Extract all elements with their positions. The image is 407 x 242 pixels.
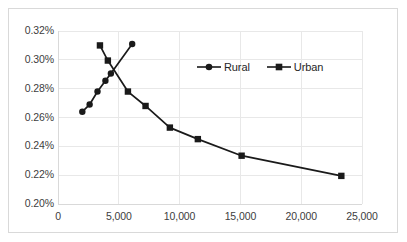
gridlines (58, 31, 362, 204)
data-point-marker (338, 173, 344, 179)
data-point-marker (125, 88, 131, 94)
x-tick-label: 20,000 (285, 210, 317, 222)
data-point-marker (86, 101, 92, 107)
x-tick-label: 10,000 (164, 210, 196, 222)
data-point-marker (167, 124, 173, 130)
y-tick-label: 0.30% (12, 53, 54, 65)
y-tick-label: 0.20% (12, 197, 54, 209)
data-point-marker (108, 70, 114, 76)
legend-label-rural: Rural (224, 61, 250, 73)
data-point-marker (79, 109, 85, 115)
legend-item-urban: Urban (266, 61, 323, 73)
y-tick-label: 0.28% (12, 82, 54, 94)
data-point-marker (142, 103, 148, 109)
data-point-marker (105, 57, 111, 63)
data-point-marker (102, 78, 108, 84)
chart-container: 0.20%0.22%0.24%0.26%0.28%0.30%0.32% 05,0… (0, 0, 407, 242)
legend-item-rural: Rural (196, 61, 250, 73)
y-tick-label: 0.24% (12, 139, 54, 151)
data-point-marker (94, 88, 100, 94)
legend-marker-square-icon (266, 61, 292, 73)
x-tick-label: 0 (55, 210, 61, 222)
y-tick-label: 0.22% (12, 168, 54, 180)
data-point-marker (97, 42, 103, 48)
chart-legend: Rural Urban (196, 61, 323, 73)
data-point-marker (129, 41, 135, 47)
x-tick-label: 25,000 (346, 210, 378, 222)
legend-label-urban: Urban (294, 61, 323, 73)
y-tick-label: 0.32% (12, 24, 54, 36)
x-tick-label: 5,000 (106, 210, 132, 222)
data-point-marker (195, 136, 201, 142)
data-point-marker (238, 153, 244, 159)
x-tick-label: 15,000 (225, 210, 257, 222)
chart-plot-area (0, 0, 407, 242)
y-tick-label: 0.26% (12, 111, 54, 123)
legend-marker-circle-icon (196, 61, 222, 73)
